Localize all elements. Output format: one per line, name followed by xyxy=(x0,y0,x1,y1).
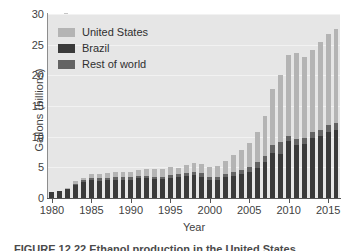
bar-segment-united-states xyxy=(207,167,212,177)
bar-segment-brazil xyxy=(239,174,244,198)
bar-segment-brazil xyxy=(199,177,204,198)
bar-segment-brazil xyxy=(144,178,149,198)
bar-segment-brazil xyxy=(168,178,173,198)
bar-1980 xyxy=(49,192,54,198)
bar-segment-brazil xyxy=(326,132,331,198)
bar-1992 xyxy=(144,169,149,198)
bar-segment-united-states xyxy=(192,163,197,172)
x-tick-label: 1995 xyxy=(158,204,182,216)
chart-legend: United StatesBrazilRest of world xyxy=(58,26,148,71)
x-tick-label: 1990 xyxy=(119,204,143,216)
bar-segment-brazil xyxy=(231,176,236,198)
y-axis-tick-labels: 051015202530 xyxy=(20,14,44,198)
bar-1995 xyxy=(168,167,173,198)
bar-segment-brazil xyxy=(247,172,252,198)
bar-2015 xyxy=(326,34,331,198)
bar-segment-united-states xyxy=(302,57,307,138)
bar-segment-united-states xyxy=(318,42,323,130)
bar-segment-brazil xyxy=(294,145,299,198)
y-tick-label: 15 xyxy=(20,100,44,112)
bar-segment-united-states xyxy=(239,150,244,171)
bar-1989 xyxy=(121,172,126,198)
bar-segment-brazil xyxy=(334,130,339,198)
bar-segment-brazil xyxy=(113,180,118,198)
bar-segment-united-states xyxy=(286,55,291,137)
bar-segment-united-states xyxy=(278,75,283,141)
x-tick-mark xyxy=(328,199,329,203)
bar-1982 xyxy=(65,188,70,198)
bar-1997 xyxy=(184,165,189,198)
bar-segment-united-states xyxy=(168,167,173,176)
bar-segment-brazil xyxy=(57,191,62,198)
legend-swatch-icon xyxy=(58,60,75,69)
figure-caption: FIGURE 12.22 Ethanol production in the U… xyxy=(14,243,348,251)
x-tick-label: 1980 xyxy=(40,204,64,216)
bar-segment-united-states xyxy=(263,116,268,156)
bar-2006 xyxy=(255,132,260,198)
bar-1985 xyxy=(89,174,94,198)
x-tick-label: 2015 xyxy=(316,204,340,216)
bar-segment-brazil xyxy=(121,180,126,198)
figure-container: Gallons (billions) 051015202530 United S… xyxy=(0,0,348,251)
bar-1987 xyxy=(105,173,110,198)
bar-segment-brazil xyxy=(302,144,307,198)
bar-2003 xyxy=(231,155,236,198)
bar-1988 xyxy=(113,172,118,198)
legend-label: Rest of world xyxy=(82,59,146,70)
bar-segment-brazil xyxy=(286,141,291,198)
bar-1991 xyxy=(136,170,141,198)
x-tick-mark xyxy=(289,199,290,203)
bar-segment-brazil xyxy=(105,180,110,198)
bar-segment-brazil xyxy=(81,182,86,198)
bar-segment-united-states xyxy=(310,50,315,132)
legend-item-rest-of-world: Rest of world xyxy=(58,58,148,71)
bar-1990 xyxy=(128,172,133,198)
bar-segment-brazil xyxy=(310,138,315,198)
bar-segment-brazil xyxy=(97,181,102,198)
bar-segment-rest-of-world xyxy=(326,125,331,132)
y-tick-label: 25 xyxy=(20,39,44,51)
x-tick-label: 2010 xyxy=(276,204,300,216)
x-tick-mark xyxy=(91,199,92,203)
bar-segment-united-states xyxy=(270,89,275,145)
x-tick-mark xyxy=(210,199,211,203)
y-tick-label: 5 xyxy=(20,161,44,173)
bar-segment-brazil xyxy=(128,180,133,198)
bar-segment-united-states xyxy=(326,34,331,125)
legend-item-brazil: Brazil xyxy=(58,42,148,55)
bar-1993 xyxy=(152,169,157,198)
bar-segment-brazil xyxy=(152,179,157,198)
bar-segment-brazil xyxy=(49,192,54,198)
y-tick-label: 30 xyxy=(20,8,44,20)
bar-1999 xyxy=(199,164,204,198)
bar-segment-brazil xyxy=(270,153,275,198)
bar-1983 xyxy=(73,181,78,198)
x-axis-title: Year xyxy=(48,221,340,233)
y-tick-label: 10 xyxy=(20,131,44,143)
bar-2002 xyxy=(223,161,228,198)
bar-2014 xyxy=(318,42,323,198)
bar-segment-united-states xyxy=(144,169,149,176)
bar-2012 xyxy=(302,57,307,198)
bar-segment-brazil xyxy=(65,189,70,198)
y-tick-label: 0 xyxy=(20,192,44,204)
x-axis-tick-labels: 19801985199019952000200520102015 xyxy=(48,199,340,221)
bar-segment-rest-of-world xyxy=(278,142,283,155)
x-tick-mark xyxy=(249,199,250,203)
x-tick-label: 2005 xyxy=(237,204,261,216)
bar-segment-brazil xyxy=(192,175,197,198)
legend-swatch-icon xyxy=(58,28,75,37)
bar-segment-brazil xyxy=(278,154,283,198)
bar-segment-united-states xyxy=(184,165,189,173)
bar-segment-united-states xyxy=(223,161,228,174)
bar-segment-brazil xyxy=(73,185,78,198)
y-tick-label: 20 xyxy=(20,69,44,81)
bar-segment-united-states xyxy=(160,169,165,177)
legend-label: Brazil xyxy=(82,43,110,54)
bar-segment-united-states xyxy=(255,132,260,162)
bar-1986 xyxy=(97,174,102,198)
bar-2010 xyxy=(286,55,291,199)
bar-segment-brazil xyxy=(89,180,94,198)
x-tick-label: 1985 xyxy=(79,204,103,216)
bar-segment-rest-of-world xyxy=(270,145,275,152)
